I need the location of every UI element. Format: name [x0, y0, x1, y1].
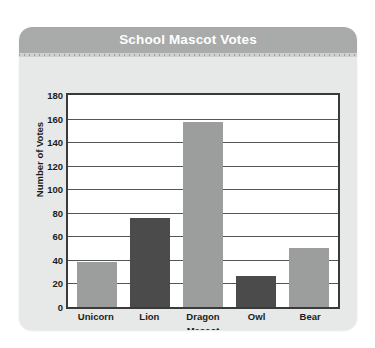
x-tick-label: Owl	[230, 311, 284, 322]
bar-slot	[124, 95, 177, 307]
page-title: School Mascot Votes	[19, 27, 357, 53]
y-tick-label: 180	[33, 90, 63, 101]
x-axis-tick-labels: UnicornLionDragonOwlBear	[66, 311, 340, 322]
chart-card: School Mascot Votes Number of Votes 0204…	[19, 27, 357, 330]
bar-slot	[71, 95, 124, 307]
x-axis-title: Mascot	[66, 325, 340, 330]
y-tick-label: 20	[33, 278, 63, 289]
plot-area	[66, 93, 340, 309]
y-tick-label: 80	[33, 207, 63, 218]
y-tick-label: 140	[33, 137, 63, 148]
bar[interactable]	[289, 248, 329, 307]
bar[interactable]	[183, 122, 223, 307]
y-tick-label: 160	[33, 113, 63, 124]
y-tick-label: 120	[33, 160, 63, 171]
y-tick-label: 60	[33, 231, 63, 242]
y-axis-tick-labels: 020406080100120140160180	[33, 93, 63, 309]
y-tick-label: 100	[33, 184, 63, 195]
bar-slot	[282, 95, 335, 307]
x-tick-label: Dragon	[176, 311, 230, 322]
bar[interactable]	[77, 262, 117, 307]
bars-layer	[68, 95, 338, 307]
y-tick-label: 40	[33, 254, 63, 265]
bar-slot	[177, 95, 230, 307]
x-tick-label: Lion	[123, 311, 177, 322]
bar-slot	[229, 95, 282, 307]
bar[interactable]	[130, 218, 170, 308]
card-header: School Mascot Votes	[19, 27, 357, 53]
x-tick-label: Unicorn	[69, 311, 123, 322]
y-tick-label: 0	[33, 302, 63, 313]
bar-chart: Number of Votes 020406080100120140160180…	[19, 57, 357, 330]
x-tick-label: Bear	[283, 311, 337, 322]
bar[interactable]	[236, 276, 276, 307]
